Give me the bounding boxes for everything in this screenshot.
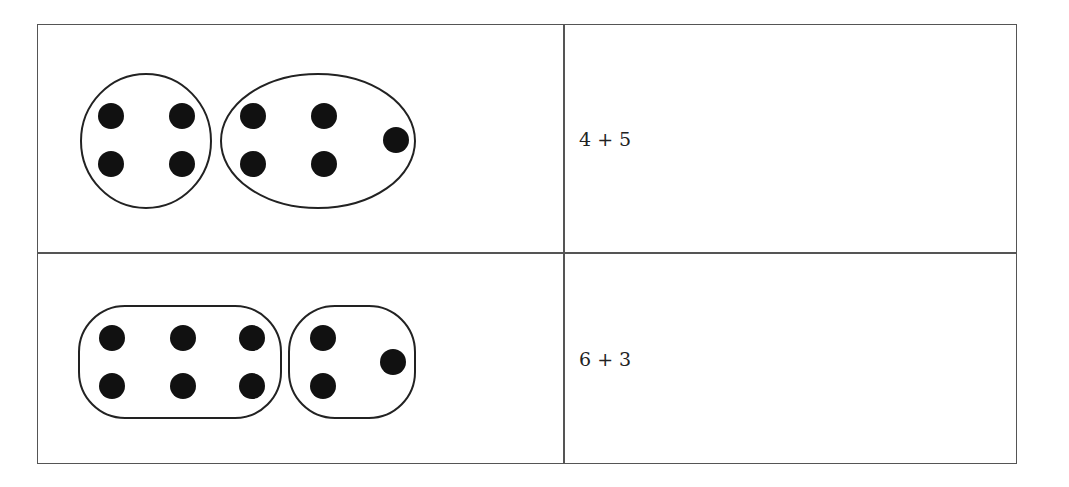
group-of-6-dots [79, 306, 281, 418]
row-1-expression: 4 + 5 [565, 25, 1016, 252]
group-of-4-dots [81, 74, 211, 208]
row-2-picture [38, 254, 563, 463]
addition-table: 4 + 5 6 + 3 [37, 24, 1017, 464]
row-1-picture [38, 25, 563, 252]
group-of-3-dots [289, 306, 415, 418]
group-of-5-dots [221, 74, 415, 208]
row-2-expression: 6 + 3 [565, 254, 1016, 463]
